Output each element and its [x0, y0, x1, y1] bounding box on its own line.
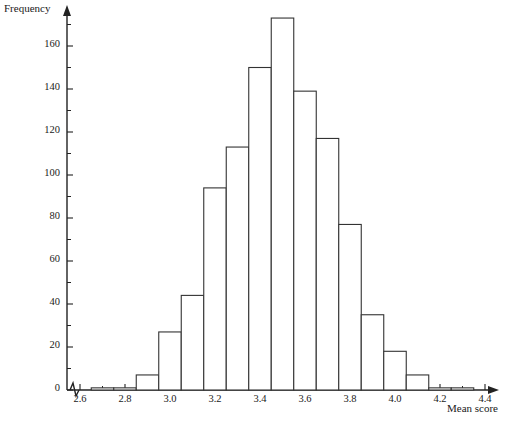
y-axis-arrow-icon	[63, 5, 71, 16]
histogram-bar	[294, 91, 317, 390]
x-tick-label: 4.4	[467, 393, 503, 404]
y-tick-label: 160	[20, 38, 60, 49]
x-tick-label: 4.2	[422, 393, 458, 404]
histogram-bar	[429, 388, 452, 390]
x-tick-label: 3.8	[332, 393, 368, 404]
y-axis-label: Frequency	[4, 2, 50, 14]
histogram-bar	[316, 138, 339, 390]
histogram-bar	[226, 147, 249, 390]
histogram-bar	[249, 68, 272, 391]
histogram-bar	[204, 188, 227, 390]
y-tick-label: 140	[20, 81, 60, 92]
y-tick-label: 20	[20, 339, 60, 350]
x-tick-label: 3.2	[197, 393, 233, 404]
histogram-bar	[114, 388, 137, 390]
histogram-bar	[91, 388, 114, 390]
histogram-bar	[159, 332, 182, 390]
y-tick-label: 80	[20, 210, 60, 221]
x-tick-label: 3.6	[287, 393, 323, 404]
histogram-svg	[0, 0, 510, 427]
y-tick-label: 0	[20, 382, 60, 393]
x-tick-label: 3.0	[152, 393, 188, 404]
histogram-bar	[406, 375, 429, 390]
histogram-bar	[339, 224, 362, 390]
histogram-bar	[361, 315, 384, 390]
histogram-figure: Frequency Mean score 0204060801001201401…	[0, 0, 510, 427]
histogram-bar	[181, 295, 204, 390]
histogram-bar	[451, 388, 474, 390]
bars-group	[91, 18, 474, 390]
histogram-bar	[384, 351, 407, 390]
x-tick-label: 2.8	[107, 393, 143, 404]
y-tick-label: 100	[20, 167, 60, 178]
x-tick-label: 2.6	[62, 393, 98, 404]
y-tick-label: 120	[20, 124, 60, 135]
x-tick-label: 3.4	[242, 393, 278, 404]
y-tick-label: 60	[20, 253, 60, 264]
histogram-bar	[136, 375, 159, 390]
histogram-bar	[271, 18, 294, 390]
x-tick-label: 4.0	[377, 393, 413, 404]
y-tick-label: 40	[20, 296, 60, 307]
